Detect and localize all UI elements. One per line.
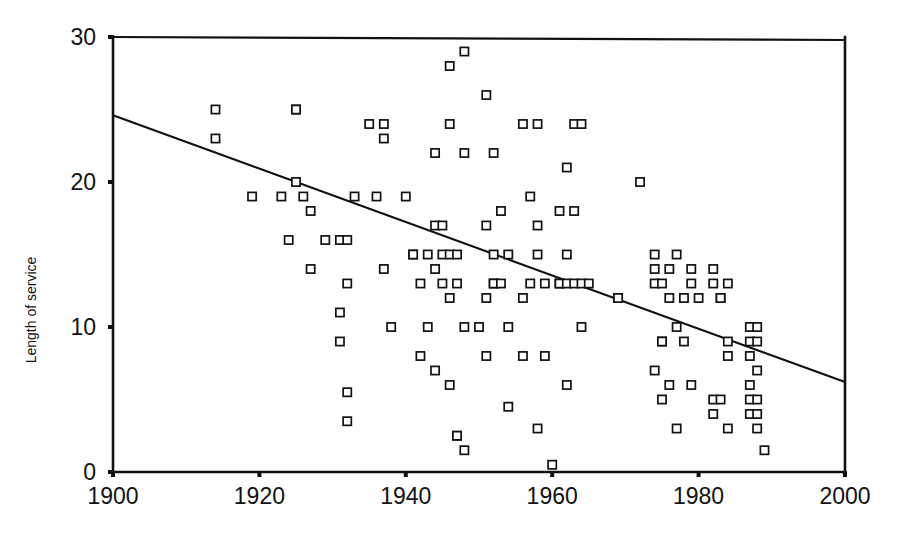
data-point-marker (343, 279, 351, 287)
data-point-marker (585, 279, 593, 287)
data-point-marker (563, 250, 571, 258)
data-point-marker (533, 221, 541, 229)
data-point-marker (753, 410, 761, 418)
data-point-marker (504, 250, 512, 258)
data-point-marker (687, 381, 695, 389)
data-point-marker (490, 149, 498, 157)
data-point-marker (431, 265, 439, 273)
data-point-marker (504, 403, 512, 411)
data-point-marker (716, 395, 724, 403)
data-point-marker (460, 446, 468, 454)
chart-canvas: Length of service 0102030 19001920194019… (0, 0, 900, 552)
x-tick-label: 1960 (527, 483, 578, 509)
data-point-marker (665, 265, 673, 273)
data-point-marker (446, 62, 454, 70)
data-point-marker (321, 236, 329, 244)
data-point-marker (533, 120, 541, 128)
data-point-marker (636, 178, 644, 186)
data-point-marker (336, 308, 344, 316)
data-point-marker (746, 352, 754, 360)
data-point-marker (753, 366, 761, 374)
data-point-marker (519, 294, 527, 302)
data-point-marker (709, 410, 717, 418)
plot-top-border (113, 37, 845, 40)
data-point-marker (570, 207, 578, 215)
y-tick-label: 10 (70, 314, 96, 340)
data-point-marker (453, 432, 461, 440)
y-tick-label: 0 (83, 459, 96, 485)
data-point-marker (724, 279, 732, 287)
data-point-marker (563, 163, 571, 171)
data-point-marker (504, 323, 512, 331)
data-point-marker (416, 352, 424, 360)
data-point-marker (336, 337, 344, 345)
data-point-marker (541, 279, 549, 287)
data-point-marker (211, 134, 219, 142)
data-point-marker (687, 265, 695, 273)
data-point-marker (453, 250, 461, 258)
data-point-marker (746, 381, 754, 389)
data-point-marker (482, 352, 490, 360)
data-point-marker (519, 352, 527, 360)
x-tick-label: 1900 (87, 483, 138, 509)
axis-tick-marks (108, 37, 845, 477)
data-point-marker (446, 120, 454, 128)
data-point-marker (285, 236, 293, 244)
data-point-marker (658, 395, 666, 403)
data-point-marker (665, 381, 673, 389)
y-tick-label: 20 (70, 169, 96, 195)
data-point-marker (380, 134, 388, 142)
data-point-marker (343, 388, 351, 396)
data-point-marker (409, 250, 417, 258)
data-point-marker (350, 192, 358, 200)
data-point-marker (548, 461, 556, 469)
data-point-marker (555, 207, 563, 215)
data-point-marker (753, 395, 761, 403)
data-point-marker (482, 91, 490, 99)
data-point-marker (709, 279, 717, 287)
data-point-marker (431, 149, 439, 157)
data-point-marker (695, 294, 703, 302)
data-point-marker (497, 279, 505, 287)
data-point-marker (687, 279, 695, 287)
data-point-marker (658, 337, 666, 345)
data-point-marker (343, 236, 351, 244)
data-point-marker (533, 250, 541, 258)
data-point-marker (424, 323, 432, 331)
data-point-markers (211, 47, 768, 468)
x-tick-label: 2000 (819, 483, 870, 509)
data-point-marker (658, 279, 666, 287)
y-axis-tick-labels: 0102030 (70, 24, 96, 485)
data-point-marker (651, 265, 659, 273)
data-point-marker (380, 265, 388, 273)
data-point-marker (402, 192, 410, 200)
data-point-marker (365, 120, 373, 128)
y-axis-title-text: Length of service (23, 256, 39, 363)
data-point-marker (651, 366, 659, 374)
y-tick-label: 30 (70, 24, 96, 50)
data-point-marker (307, 265, 315, 273)
data-point-marker (533, 424, 541, 432)
data-point-marker (673, 250, 681, 258)
y-axis-title: Length of service (23, 256, 39, 363)
data-point-marker (343, 417, 351, 425)
data-point-marker (277, 192, 285, 200)
data-point-marker (482, 294, 490, 302)
data-point-marker (753, 424, 761, 432)
data-point-marker (453, 279, 461, 287)
data-point-marker (577, 120, 585, 128)
data-point-marker (438, 279, 446, 287)
x-tick-label: 1980 (673, 483, 724, 509)
trend-line (113, 115, 845, 382)
x-tick-label: 1940 (380, 483, 431, 509)
x-tick-label: 1920 (234, 483, 285, 509)
data-point-marker (673, 424, 681, 432)
data-point-marker (680, 294, 688, 302)
data-point-marker (380, 120, 388, 128)
data-point-marker (387, 323, 395, 331)
data-point-marker (431, 366, 439, 374)
data-point-marker (614, 294, 622, 302)
data-point-marker (760, 446, 768, 454)
data-point-marker (673, 323, 681, 331)
data-point-marker (753, 323, 761, 331)
